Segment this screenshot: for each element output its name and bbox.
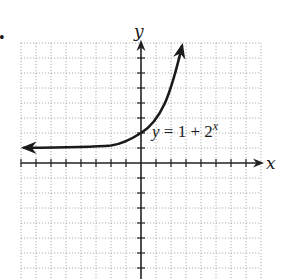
bullet-marker: •: [0, 29, 5, 46]
equation-body: = 1 + 2: [160, 122, 213, 141]
x-axis: x: [21, 153, 276, 173]
equation-exponent: x: [212, 119, 219, 133]
y-axis: y: [133, 21, 145, 279]
y-axis-label: y: [133, 21, 144, 41]
exponential-graph: •: [0, 0, 282, 279]
equation-label: y = 1 + 2x: [150, 119, 219, 141]
equation-lhs: y: [150, 122, 160, 141]
x-axis-label: x: [266, 153, 276, 173]
